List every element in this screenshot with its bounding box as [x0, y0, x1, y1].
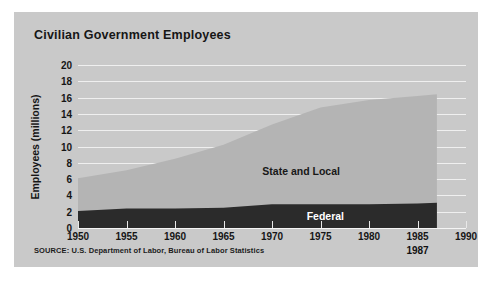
x-axis-tickmark — [466, 221, 467, 228]
series-label-federal: Federal — [307, 210, 344, 222]
y-axis-tick-label: 14 — [61, 108, 72, 119]
plot-area: 02468101214161820 1950195519601965197019… — [78, 65, 466, 228]
page-title: Civilian Government Employees — [34, 28, 231, 42]
y-axis-tick-label: 20 — [61, 60, 72, 71]
series-label-state-and-local: State and Local — [262, 165, 340, 177]
x-axis-baseline — [78, 228, 466, 230]
chart-figure: Civilian Government Employees Employees … — [14, 12, 478, 267]
y-axis-tick-label: 2 — [66, 206, 72, 217]
y-axis-tick-label: 12 — [61, 125, 72, 136]
x-axis-tick-label: 1975 — [309, 231, 331, 242]
y-axis-tick-label: 16 — [61, 92, 72, 103]
x-axis-end-year-callout: 1987 — [406, 245, 428, 256]
x-axis-tick-label: 1965 — [212, 231, 234, 242]
x-axis-tick-label: 1960 — [164, 231, 186, 242]
x-axis-tick-label: 1990 — [455, 231, 477, 242]
y-axis-label-text: Employees (millions) — [29, 94, 41, 199]
y-axis-tick-label: 10 — [61, 141, 72, 152]
area-series-group — [78, 65, 466, 228]
y-axis-tick-label: 4 — [66, 190, 72, 201]
source-note: SOURCE: U.S. Department of Labor, Bureau… — [34, 246, 264, 255]
x-axis-tick-label: 1950 — [67, 231, 89, 242]
x-axis-tick-label: 1985 — [406, 231, 428, 242]
y-axis-label: Employees (millions) — [28, 65, 42, 228]
x-axis-tick-label: 1980 — [358, 231, 380, 242]
x-axis-tick-label: 1970 — [261, 231, 283, 242]
y-axis-tick-label: 18 — [61, 76, 72, 87]
y-axis-tick-label: 6 — [66, 174, 72, 185]
x-axis-tick-label: 1955 — [115, 231, 137, 242]
y-axis-tick-label: 8 — [66, 157, 72, 168]
